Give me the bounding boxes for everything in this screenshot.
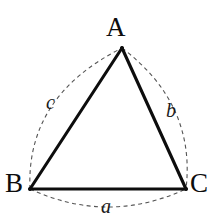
edge-A-B xyxy=(30,48,122,189)
vertex-point-A xyxy=(120,46,124,50)
vertex-label-c: C xyxy=(190,170,208,197)
geometry-figure: A B C c b a xyxy=(0,0,219,215)
side-label-c: c xyxy=(46,92,55,112)
edge-A-C xyxy=(122,48,186,189)
side-label-a: a xyxy=(101,196,111,215)
vertex-point-C xyxy=(184,187,188,191)
vertex-label-a: A xyxy=(106,14,126,41)
vertex-point-B xyxy=(28,187,32,191)
vertex-label-b: B xyxy=(5,170,23,197)
side-label-b: b xyxy=(166,100,176,120)
